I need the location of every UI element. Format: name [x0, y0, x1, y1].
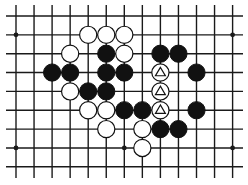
- star-point: [230, 146, 235, 151]
- black-stone: [98, 83, 115, 100]
- black-stone: [188, 102, 205, 119]
- star-point: [122, 146, 127, 151]
- white-stone: [98, 102, 115, 119]
- black-stone: [116, 64, 133, 81]
- star-point: [14, 32, 19, 37]
- black-stone: [152, 121, 169, 138]
- black-stone: [98, 64, 115, 81]
- white-stone: [116, 26, 133, 43]
- star-point: [14, 146, 19, 151]
- white-stone: [98, 26, 115, 43]
- white-stone: [134, 139, 151, 156]
- black-stone: [134, 102, 151, 119]
- black-stone: [152, 45, 169, 62]
- white-stone: [98, 121, 115, 138]
- black-stone: [62, 64, 79, 81]
- white-stone: [134, 121, 151, 138]
- black-stone: [80, 83, 97, 100]
- go-board-grid[interactable]: [0, 0, 248, 185]
- white-stone: [62, 83, 79, 100]
- white-stone: [62, 45, 79, 62]
- black-stone: [44, 64, 61, 81]
- black-stone: [188, 64, 205, 81]
- black-stone: [170, 121, 187, 138]
- white-stone: [80, 26, 97, 43]
- star-point: [230, 32, 235, 37]
- go-board: [0, 0, 248, 185]
- white-stone: [116, 45, 133, 62]
- black-stone: [170, 45, 187, 62]
- black-stone: [116, 102, 133, 119]
- black-stone: [98, 45, 115, 62]
- white-stone: [80, 102, 97, 119]
